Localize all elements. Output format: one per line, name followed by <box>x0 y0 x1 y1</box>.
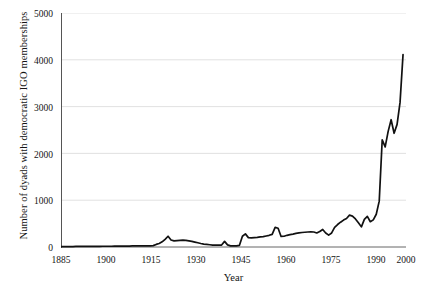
y-tick-3000: 3000 <box>24 103 53 113</box>
y-tick-4000: 4000 <box>24 56 53 66</box>
chart-figure: Number of dyads with democratic IGO memb… <box>0 0 423 295</box>
x-tick-1945: 1945 <box>221 255 261 266</box>
data-series-line <box>61 55 403 247</box>
plot-area <box>61 13 406 248</box>
y-tick-5000: 5000 <box>24 9 53 19</box>
axis-spines <box>61 13 406 248</box>
x-tick-1900: 1900 <box>86 255 126 266</box>
y-tick-2000: 2000 <box>24 150 53 160</box>
x-tick-1885: 1885 <box>41 255 81 266</box>
gridlines <box>61 13 406 247</box>
x-axis-title: Year <box>61 272 406 283</box>
x-tick-1975: 1975 <box>311 255 351 266</box>
x-tick-1930: 1930 <box>176 255 216 266</box>
axis-tick-marks <box>61 13 403 248</box>
y-tick-0: 0 <box>24 243 53 253</box>
line-chart-svg <box>61 13 406 248</box>
y-axis-title: Number of dyads with democratic IGO memb… <box>16 0 32 253</box>
x-tick-1915: 1915 <box>131 255 171 266</box>
x-tick-1960: 1960 <box>266 255 306 266</box>
x-tick-2000: 2000 <box>386 255 423 266</box>
y-tick-1000: 1000 <box>24 196 53 206</box>
